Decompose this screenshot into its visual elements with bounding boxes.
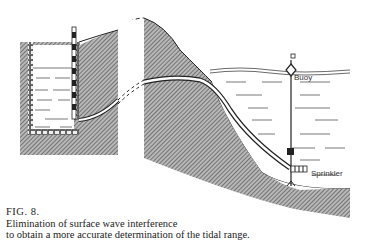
well-floor [28,129,79,135]
sprinkler-label: Sprinkler [311,169,343,178]
figure: Buoy Sprinkler FIG. 8. Elimination of su… [0,0,374,246]
caption-line-2: to obtain a more accurate determination … [6,229,250,241]
sprinkler [291,166,307,172]
buoy-label: Buoy [294,73,312,82]
stilling-well [30,45,74,129]
well-wall-left [28,42,33,134]
figure-caption: FIG. 8. Elimination of surface wave inte… [6,206,250,241]
weight [287,148,294,155]
caption-line-1: Elimination of surface wave interference [6,218,250,230]
figure-number: FIG. 8. [6,206,250,218]
